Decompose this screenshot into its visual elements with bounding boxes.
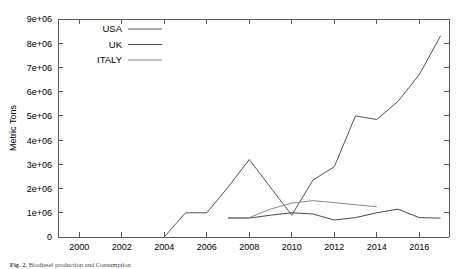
x-tick-label: 2014 <box>367 242 387 252</box>
line-chart: 01e+062e+063e+064e+065e+066e+067e+068e+0… <box>0 0 457 269</box>
caption-text: Biodiesel production and Consumption <box>29 261 131 268</box>
figure-container: 01e+062e+063e+064e+065e+066e+067e+068e+0… <box>0 0 457 269</box>
caption-prefix: Fig. 2. <box>10 261 27 268</box>
y-tick-label: 2e+06 <box>27 184 52 194</box>
legend-label-italy: ITALY <box>97 54 123 65</box>
y-tick-label: 3e+06 <box>27 160 52 170</box>
x-tick-label: 2006 <box>197 242 217 252</box>
y-tick-label: 0 <box>47 232 52 242</box>
series-line-uk <box>228 209 441 220</box>
x-tick-label: 2016 <box>409 242 429 252</box>
y-tick-label: 5e+06 <box>27 111 52 121</box>
series-line-usa <box>164 36 440 237</box>
series-line-italy <box>228 201 377 218</box>
y-tick-label: 9e+06 <box>27 14 52 24</box>
y-axis-title: Metric Tons <box>8 105 18 151</box>
y-tick-label: 7e+06 <box>27 63 52 73</box>
legend-label-uk: UK <box>109 39 123 50</box>
y-tick-label: 1e+06 <box>27 208 52 218</box>
x-tick-label: 2002 <box>112 242 132 252</box>
y-tick-label: 8e+06 <box>27 39 52 49</box>
x-tick-label: 2010 <box>282 242 302 252</box>
y-tick-label: 6e+06 <box>27 87 52 97</box>
plot-frame <box>58 19 449 237</box>
x-tick-label: 2000 <box>69 242 89 252</box>
y-tick-label: 4e+06 <box>27 136 52 146</box>
figure-caption: Fig. 2. Biodiesel production and Consump… <box>10 261 131 269</box>
x-tick-label: 2012 <box>324 242 344 252</box>
x-tick-label: 2008 <box>239 242 259 252</box>
legend-label-usa: USA <box>102 23 122 34</box>
x-tick-label: 2004 <box>154 242 174 252</box>
